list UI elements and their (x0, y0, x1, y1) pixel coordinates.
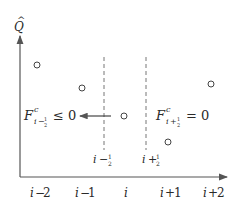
svg-text:2: 2 (44, 122, 47, 128)
svg-text:i: i (34, 117, 37, 126)
flux-left-label: F c i − 1 2 ≤ 0 (23, 105, 76, 128)
cell-marker-i-minus-2 (34, 62, 40, 68)
diagram-canvas: ^ Q F c i − 1 2 ≤ 0 F c i + 1 2 = 0 i − … (0, 0, 241, 209)
svg-text:2: 2 (217, 186, 225, 200)
cell-marker-i-plus-2 (208, 81, 214, 87)
interface-label-right: i + 1 2 (142, 153, 160, 167)
svg-text:i: i (160, 186, 164, 200)
cell-marker-i-plus-1 (165, 139, 171, 145)
svg-text:≤ 0: ≤ 0 (53, 108, 76, 123)
svg-text:F: F (155, 108, 166, 123)
svg-text:1: 1 (174, 186, 182, 200)
flux-right-label: F c i + 1 2 = 0 (155, 105, 209, 128)
svg-text:+: + (170, 117, 177, 126)
svg-text:2: 2 (43, 186, 51, 200)
svg-text:F: F (23, 108, 34, 123)
svg-text:i: i (93, 153, 97, 166)
x-tick-i-minus-2: i − 2 (30, 186, 51, 200)
x-tick-i: i (124, 186, 128, 200)
svg-text:2: 2 (177, 122, 180, 128)
svg-text:1: 1 (88, 186, 96, 200)
svg-text:−: − (99, 153, 108, 166)
svg-text:1: 1 (108, 153, 112, 160)
x-tick-i-minus-1: i − 1 (75, 186, 96, 200)
x-tick-i-plus-2: i + 2 (203, 186, 225, 200)
svg-text:i: i (203, 186, 207, 200)
cell-marker-i (121, 113, 127, 119)
svg-text:c: c (34, 105, 39, 114)
cell-marker-i-minus-1 (79, 85, 85, 91)
svg-text:i: i (166, 117, 169, 126)
y-axis-label: Q (14, 20, 24, 34)
svg-text:2: 2 (156, 160, 160, 167)
x-tick-i-plus-1: i + 1 (160, 186, 182, 200)
svg-text:i: i (75, 186, 79, 200)
interface-label-left: i − 1 2 (93, 153, 112, 167)
svg-text:1: 1 (156, 153, 160, 160)
svg-text:c: c (166, 105, 171, 114)
svg-text:i: i (124, 186, 128, 200)
svg-text:2: 2 (108, 160, 112, 167)
svg-text:= 0: = 0 (186, 108, 209, 123)
svg-text:i: i (142, 153, 146, 166)
svg-text:i: i (30, 186, 34, 200)
